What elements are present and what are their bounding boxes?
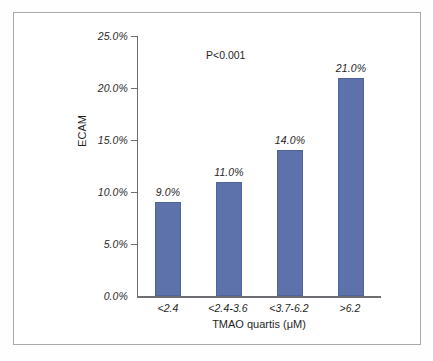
bar-quartile-3[interactable] <box>277 150 303 296</box>
bar-quartile-2[interactable] <box>216 182 242 296</box>
x-tick-label-1: <2.4 <box>138 302 198 314</box>
y-axis-line <box>137 36 138 297</box>
y-axis-tick-labels: 25.0% 20.0% 15.0% 10.0% 5.0% 0.0% <box>0 0 128 361</box>
x-tick-label-2: <2.4-3.6 <box>196 302 260 314</box>
x-tick-label-4: >6.2 <box>322 302 378 314</box>
bar-value-label-4: 21.0% <box>326 62 376 74</box>
y-axis-title: ECAM <box>76 101 88 161</box>
bar-value-label-1: 9.0% <box>143 186 193 198</box>
bar-quartile-4[interactable] <box>338 78 364 296</box>
bar-quartile-1[interactable] <box>155 202 181 296</box>
y-tick-label-25: 25.0% <box>98 30 128 42</box>
y-tick-label-15: 15.0% <box>98 134 128 146</box>
bar-value-label-3: 14.0% <box>265 134 315 146</box>
y-tick-label-10: 10.0% <box>98 186 128 198</box>
x-axis-title: TMAO quartis (μM) <box>137 318 381 330</box>
x-tick-label-3: <3.7-6.2 <box>257 302 321 314</box>
figure-canvas: 25.0% 20.0% 15.0% 10.0% 5.0% 0.0% 9.0% 1… <box>0 0 433 361</box>
x-axis-line <box>137 296 381 298</box>
y-tick-label-20: 20.0% <box>98 82 128 94</box>
y-tick-label-0: 0.0% <box>104 290 128 302</box>
y-tick-label-5: 5.0% <box>104 238 128 250</box>
p-value-annotation: P<0.001 <box>206 49 245 61</box>
bar-value-label-2: 11.0% <box>204 166 254 178</box>
